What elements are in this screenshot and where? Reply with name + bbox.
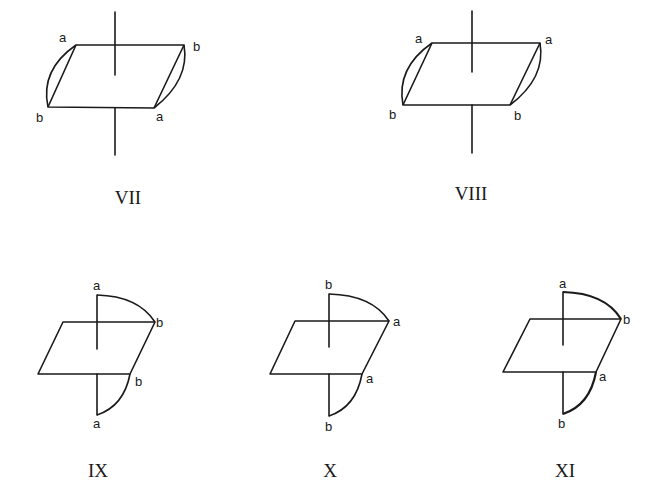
label-axis-top: a [93,278,101,293]
label-bottom-right: a [156,109,164,124]
figure-x: b a a b X [270,277,401,481]
diagram-canvas: a b b a VII a a b b VIII a b b a IX [0,0,662,500]
label-axis-bottom: b [558,416,565,431]
caption: IX [88,460,108,481]
label-axis-top: a [559,276,567,291]
label-top-right: b [193,39,200,54]
figure-viii: a a b b VIII [389,11,553,204]
label-axis-bottom: b [325,419,332,434]
label-top-right: a [393,314,401,329]
caption: VII [115,187,141,208]
figure-ix: a b b a IX [38,278,163,481]
label-top-right: a [545,32,553,47]
caption: XI [555,460,575,481]
label-bottom-right: a [366,371,374,386]
parallelogram [48,45,184,108]
label-top-left: a [415,31,423,46]
parallelogram [503,319,621,372]
lower-arc [563,372,596,414]
lower-arc [329,374,362,416]
upper-arc [329,294,389,321]
caption: X [323,460,337,481]
label-bottom-right: b [135,374,142,389]
label-bottom-left: b [389,107,396,122]
upper-arc [563,292,621,319]
figure-vii: a b b a VII [36,12,200,208]
upper-arc [97,295,155,322]
lower-arc [97,374,130,415]
label-bottom-left: b [36,110,43,125]
label-bottom-right: a [599,369,607,384]
figure-xi: a b a b XI [503,276,630,481]
label-top-right: b [623,312,630,327]
label-bottom-right: b [514,108,521,123]
caption: VIII [455,183,488,204]
label-top-right: b [156,315,163,330]
label-axis-bottom: a [93,416,101,431]
label-axis-top: b [325,277,332,292]
label-top-left: a [59,30,67,45]
